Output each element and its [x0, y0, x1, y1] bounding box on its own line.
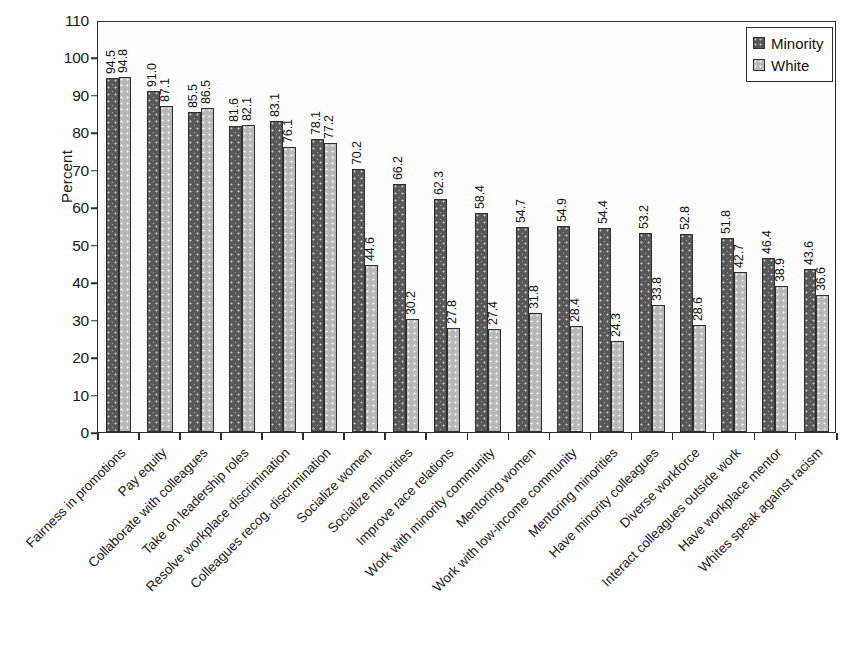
bar-value-label: 77.2	[322, 115, 336, 139]
bar-white	[488, 329, 501, 432]
bar-minority	[762, 258, 775, 432]
bar-white	[816, 295, 829, 432]
x-axis-tick-mark	[343, 433, 345, 440]
bar-value-label: 53.2	[637, 205, 651, 229]
bar-white	[160, 106, 173, 432]
bar-white	[652, 305, 665, 432]
bar-value-label: 70.2	[350, 141, 364, 165]
bar-white	[734, 272, 747, 432]
bar-value-label: 33.8	[650, 277, 664, 301]
bar-value-label: 44.6	[363, 237, 377, 261]
bar-minority	[311, 139, 324, 432]
bar-value-label: 30.2	[404, 291, 418, 315]
y-axis-tick-label: 40	[45, 274, 89, 292]
bar-value-label: 38.9	[773, 258, 787, 282]
y-axis-tick-label: 110	[45, 12, 89, 30]
bar-value-label: 28.6	[691, 297, 705, 321]
bar-white	[242, 125, 255, 433]
x-axis-tick-mark	[220, 433, 222, 440]
x-axis-tick-mark	[549, 433, 551, 440]
x-axis-tick-mark	[590, 433, 592, 440]
bar-white	[406, 319, 419, 432]
x-axis-tick-mark	[713, 433, 715, 440]
bar-value-label: 58.4	[473, 185, 487, 209]
bar-white	[529, 313, 542, 432]
bar-value-label: 24.3	[609, 313, 623, 337]
x-axis-tick-mark	[754, 433, 756, 440]
bar-value-label: 27.8	[445, 300, 459, 324]
bar-minority	[804, 269, 817, 432]
bar-white	[324, 143, 337, 432]
bar-white	[283, 147, 296, 432]
x-axis-tick-mark	[672, 433, 674, 440]
legend-item-white: White	[753, 54, 824, 76]
x-axis-tick-mark	[425, 433, 427, 440]
legend-swatch-minority-icon	[753, 37, 765, 49]
x-axis-tick-mark	[508, 433, 510, 440]
bar-minority	[188, 112, 201, 432]
x-axis-tick-mark	[836, 433, 838, 440]
bar-value-label: 76.1	[281, 119, 295, 143]
bar-minority	[639, 233, 652, 432]
bar-white	[693, 325, 706, 432]
bar-minority	[229, 126, 242, 432]
y-axis-tick-label: 90	[45, 87, 89, 105]
y-axis-tick-label: 100	[45, 49, 89, 67]
bar-white	[447, 328, 460, 432]
bar-value-label: 62.3	[432, 171, 446, 195]
bar-value-label: 85.5	[186, 84, 200, 108]
bar-value-label: 51.8	[719, 210, 733, 234]
bar-value-label: 54.7	[514, 199, 528, 223]
legend-label-white: White	[771, 57, 809, 74]
y-axis-tick-label: 0	[45, 424, 89, 442]
y-axis-tick-label: 70	[45, 162, 89, 180]
bar-white	[775, 286, 788, 432]
x-axis-tick-mark	[97, 433, 99, 440]
bar-white	[570, 326, 583, 432]
bar-value-label: 54.4	[596, 200, 610, 224]
bar-value-label: 36.6	[814, 267, 828, 291]
bar-value-label: 66.2	[391, 156, 405, 180]
y-axis-tick-label: 60	[45, 199, 89, 217]
bar-value-label: 54.9	[555, 198, 569, 222]
legend-label-minority: Minority	[771, 35, 824, 52]
bar-minority	[147, 91, 160, 432]
bar-minority	[516, 227, 529, 432]
bar-value-label: 91.0	[145, 63, 159, 87]
bar-minority	[106, 78, 119, 432]
bar-minority	[557, 226, 570, 432]
bar-value-label: 27.4	[486, 301, 500, 325]
legend: Minority White	[746, 27, 833, 82]
legend-item-minority: Minority	[753, 32, 824, 54]
bar-value-label: 83.1	[268, 93, 282, 117]
bar-minority	[352, 169, 365, 432]
bar-value-label: 81.6	[227, 98, 241, 122]
x-axis-tick-mark	[302, 433, 304, 440]
plot-area: 94.594.891.087.185.586.581.682.183.176.1…	[97, 21, 836, 433]
bar-white	[201, 108, 214, 432]
bar-value-label: 52.8	[678, 206, 692, 230]
legend-swatch-white-icon	[753, 59, 765, 71]
bar-value-label: 82.1	[240, 97, 254, 121]
bar-value-label: 42.7	[732, 244, 746, 268]
y-axis-tick-label: 20	[45, 349, 89, 367]
bar-value-label: 43.6	[802, 241, 816, 265]
bar-value-label: 31.8	[527, 285, 541, 309]
bar-minority	[680, 234, 693, 432]
y-axis-tick-label: 80	[45, 124, 89, 142]
bar-white	[119, 77, 132, 432]
y-axis-tick-label: 50	[45, 237, 89, 255]
bar-value-label: 46.4	[760, 230, 774, 254]
y-axis-tick-label: 30	[45, 312, 89, 330]
bar-value-label: 87.1	[158, 78, 172, 102]
x-axis-tick-mark	[138, 433, 140, 440]
bar-value-label: 78.1	[309, 112, 323, 136]
x-axis-tick-mark	[179, 433, 181, 440]
bar-chart: Percent 0102030405060708090100110 94.594…	[0, 0, 857, 650]
bar-minority	[270, 121, 283, 432]
bar-white	[365, 265, 378, 432]
bar-value-label: 28.4	[568, 298, 582, 322]
x-axis-tick-mark	[631, 433, 633, 440]
x-axis-tick-mark	[261, 433, 263, 440]
x-axis-tick-mark	[384, 433, 386, 440]
